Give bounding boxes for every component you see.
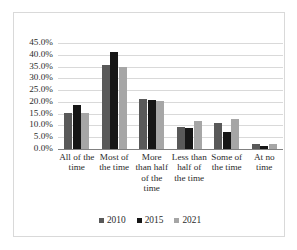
bar xyxy=(81,113,89,149)
chart-legend: 201020152021 xyxy=(14,216,286,225)
y-axis-tick-label: 20.0% xyxy=(29,97,53,106)
legend-label: 2015 xyxy=(145,216,164,225)
bar xyxy=(223,132,231,149)
legend-swatch-icon xyxy=(137,218,142,223)
bar xyxy=(269,144,277,149)
bar xyxy=(252,144,260,149)
legend-label: 2021 xyxy=(182,216,201,225)
y-axis-tick-label: 35.0% xyxy=(29,62,53,71)
legend-item[interactable]: 2021 xyxy=(174,216,201,225)
legend-label: 2010 xyxy=(107,216,126,225)
chart-card: 0.0%5.0%10.0%15.0%20.0%25.0%30.0%35.0%40… xyxy=(13,12,285,237)
bar xyxy=(139,99,147,149)
legend-item[interactable]: 2015 xyxy=(137,216,164,225)
legend-item[interactable]: 2010 xyxy=(99,216,126,225)
bar-group xyxy=(64,43,89,149)
y-axis-tick-label: 10.0% xyxy=(29,120,53,129)
bar-group xyxy=(177,43,202,149)
bar xyxy=(73,105,81,149)
bar xyxy=(185,128,193,149)
bar xyxy=(110,52,118,149)
x-axis-tick-label: Most of the time xyxy=(96,152,134,173)
bar xyxy=(102,65,110,149)
y-axis-tick-label: 0.0% xyxy=(34,144,53,153)
x-axis-category-labels: All of the timeMost of the timeMore than… xyxy=(58,152,283,214)
y-axis-tick-label: 5.0% xyxy=(34,132,53,141)
bar-group xyxy=(102,43,127,149)
y-axis: 0.0%5.0%10.0%15.0%20.0%25.0%30.0%35.0%40… xyxy=(14,13,56,238)
x-axis-tick-label: Less than half of the time xyxy=(171,152,209,183)
bar xyxy=(214,123,222,149)
legend-swatch-icon xyxy=(174,218,179,223)
bar-group xyxy=(139,43,164,149)
bar xyxy=(194,121,202,149)
bar xyxy=(231,119,239,149)
bar xyxy=(260,146,268,149)
y-axis-tick-label: 45.0% xyxy=(29,38,53,47)
y-axis-tick-label: 40.0% xyxy=(29,50,53,59)
x-axis-tick-label: Some of the time xyxy=(208,152,246,173)
y-axis-tick-label: 15.0% xyxy=(29,109,53,118)
bar-group xyxy=(252,43,277,149)
x-axis-tick-label: More than half of the time xyxy=(133,152,171,194)
bar xyxy=(156,101,164,149)
bar xyxy=(64,113,72,150)
x-axis-tick-label: All of the time xyxy=(58,152,96,173)
x-axis-tick-label: At no time xyxy=(246,152,284,173)
y-axis-tick-label: 25.0% xyxy=(29,85,53,94)
bar xyxy=(177,127,185,149)
y-axis-tick-label: 30.0% xyxy=(29,73,53,82)
bar-group xyxy=(214,43,239,149)
bar-chart-plot: 0.0%5.0%10.0%15.0%20.0%25.0%30.0%35.0%40… xyxy=(14,13,286,238)
bar xyxy=(148,100,156,149)
legend-swatch-icon xyxy=(99,218,104,223)
bar xyxy=(119,67,127,149)
